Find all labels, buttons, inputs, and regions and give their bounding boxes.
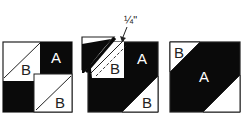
block-2-label-b-bottom: B [142, 94, 152, 111]
seam-annotation: ¼" [124, 14, 137, 26]
block-1-label-b-bottom: B [55, 94, 65, 111]
block-2-label-b-middle: B [110, 60, 120, 77]
block-3: B A [170, 42, 240, 112]
block-3-label-b: B [174, 44, 184, 61]
block-1-label-b-top: B [21, 61, 31, 78]
block-1-label-a: A [51, 49, 61, 66]
seam-arrow [123, 27, 127, 37]
block-2: ¼" A B B [82, 14, 158, 112]
block-1-dark-square-bottom [3, 81, 37, 112]
block-1: A B B [3, 42, 72, 112]
block-3-label-a: A [199, 68, 209, 85]
quilt-diagram: A B B ¼" A B B B A [0, 0, 248, 124]
block-2-label-a: A [137, 50, 147, 67]
